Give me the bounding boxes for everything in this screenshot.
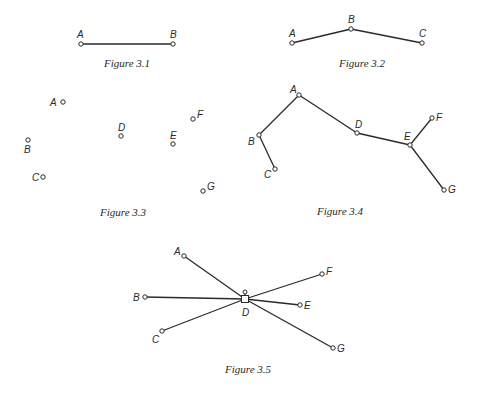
node-E: [171, 142, 175, 146]
edge-G-D: [245, 299, 333, 348]
figure-caption: Figure 3.3: [99, 206, 147, 218]
edge-A-D: [299, 95, 357, 133]
node-label-F: F: [326, 266, 333, 277]
hub-knob-icon: [243, 290, 247, 294]
node-label-B: B: [170, 29, 177, 40]
figure-fig3_4: ABCDEFGFigure 3.4: [248, 84, 456, 217]
figure-fig3_1: ABFigure 3.1: [76, 29, 177, 69]
figure-fig3_2: ABCFigure 3.2: [288, 14, 427, 69]
edge-D-E: [357, 133, 410, 145]
edge-C-D: [162, 299, 245, 331]
node-label-A: A: [76, 29, 84, 40]
node-label-B: B: [133, 292, 140, 303]
node-label-D: D: [355, 119, 362, 130]
edge-E-G: [410, 145, 444, 190]
node-B: [143, 295, 147, 299]
node-B: [26, 138, 30, 142]
node-label-G: G: [448, 184, 456, 195]
node-label-A: A: [49, 97, 57, 108]
figure-caption: Figure 3.5: [224, 363, 272, 375]
node-B: [349, 27, 353, 31]
node-label-D: D: [118, 122, 125, 133]
node-B: [171, 42, 175, 46]
node-E: [408, 143, 412, 147]
node-A: [297, 93, 301, 97]
figure-caption: Figure 3.4: [316, 205, 364, 217]
figures-canvas: ABFigure 3.1ABCFigure 3.2ABCDEFGFigure 3…: [0, 0, 481, 399]
node-label-E: E: [404, 131, 411, 142]
edge-B-C: [259, 135, 275, 169]
hub-node-D: [242, 296, 249, 303]
edge-A-B: [259, 95, 299, 135]
node-A: [61, 100, 65, 104]
node-label-C: C: [152, 334, 160, 345]
node-B: [257, 133, 261, 137]
node-F: [430, 116, 434, 120]
node-label-E: E: [170, 130, 177, 141]
node-C: [160, 329, 164, 333]
node-A: [79, 42, 83, 46]
node-E: [298, 303, 302, 307]
edge-E-F: [410, 118, 432, 145]
node-F: [320, 272, 324, 276]
node-label-G: G: [337, 343, 345, 354]
node-D: [119, 134, 123, 138]
node-G: [442, 188, 446, 192]
node-label-C: C: [32, 172, 40, 183]
edge-A-B: [292, 29, 351, 43]
node-label-E: E: [304, 300, 311, 311]
node-C: [420, 41, 424, 45]
node-label-D: D: [242, 307, 249, 318]
node-label-F: F: [197, 109, 204, 120]
figure-caption: Figure 3.2: [338, 57, 386, 69]
node-label-C: C: [264, 169, 272, 180]
node-label-B: B: [248, 136, 255, 147]
node-G: [201, 189, 205, 193]
node-label-B: B: [348, 14, 355, 25]
node-label-A: A: [288, 28, 296, 39]
node-label-A: A: [173, 246, 181, 257]
edge-F-D: [245, 274, 322, 299]
edge-B-D: [145, 297, 245, 299]
edge-B-C: [351, 29, 422, 43]
figure-caption: Figure 3.1: [103, 57, 150, 69]
node-A: [182, 254, 186, 258]
node-label-C: C: [419, 28, 427, 39]
figure-fig3_5: DABCFEGFigure 3.5: [133, 246, 345, 375]
node-F: [191, 117, 195, 121]
node-D: [355, 131, 359, 135]
node-G: [331, 346, 335, 350]
node-label-A: A: [289, 84, 297, 95]
node-label-F: F: [436, 112, 443, 123]
node-C: [273, 167, 277, 171]
node-label-G: G: [207, 181, 215, 192]
edge-A-D: [184, 256, 245, 299]
node-label-B: B: [24, 144, 31, 155]
node-A: [290, 41, 294, 45]
figure-fig3_3: ABCDEFGFigure 3.3: [24, 97, 215, 218]
node-C: [41, 175, 45, 179]
